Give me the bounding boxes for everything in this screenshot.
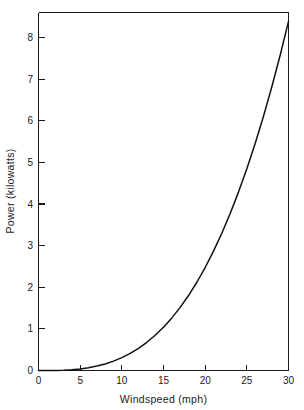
y-tick-label-6: 6 — [27, 115, 33, 126]
y-tick-label-4: 4 — [27, 199, 33, 210]
y-tick-label-0: 0 — [27, 365, 33, 376]
y-tick-label-7: 7 — [27, 74, 33, 85]
y-tick-label-2: 2 — [27, 282, 33, 293]
power-curve — [39, 21, 289, 370]
y-axis-ticks — [39, 38, 45, 371]
x-tick-label-20: 20 — [200, 375, 212, 386]
y-tick-label-3: 3 — [27, 240, 33, 251]
x-axis-title: Windspeed (mph) — [120, 393, 207, 405]
x-tick-label-15: 15 — [158, 375, 170, 386]
power-vs-windspeed-chart: 0 1 2 3 4 5 6 7 8 0 5 10 15 20 25 — [0, 0, 304, 410]
x-tick-label-5: 5 — [77, 375, 83, 386]
y-tick-label-8: 8 — [27, 32, 33, 43]
x-tick-label-10: 10 — [116, 375, 128, 386]
y-axis-tick-labels: 0 1 2 3 4 5 6 7 8 — [27, 32, 33, 376]
y-axis-title: Power (kilowatts) — [4, 148, 16, 233]
y-tick-label-5: 5 — [27, 157, 33, 168]
x-axis-tick-labels: 0 5 10 15 20 25 30 — [36, 375, 295, 386]
chart-canvas: 0 1 2 3 4 5 6 7 8 0 5 10 15 20 25 — [0, 0, 304, 410]
x-tick-label-25: 25 — [241, 375, 253, 386]
plot-frame — [39, 13, 289, 371]
x-tick-label-30: 30 — [283, 375, 295, 386]
y-tick-label-1: 1 — [27, 323, 33, 334]
x-tick-label-0: 0 — [36, 375, 42, 386]
